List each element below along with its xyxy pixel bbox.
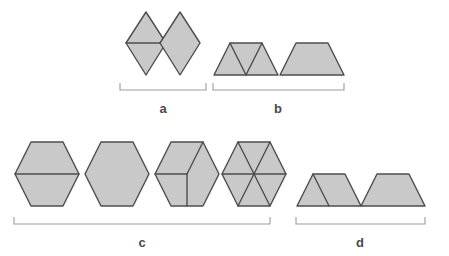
group-label-c: c [138, 235, 145, 250]
trapezoid-whole-outline [280, 43, 344, 75]
group-label-d: d [356, 235, 364, 250]
shape-group-d [297, 174, 425, 206]
hexagon-whole-outline [85, 142, 149, 206]
shape-group-c [15, 142, 286, 206]
group-label-b: b [274, 101, 282, 116]
trapezoid-three-triangles-outline [214, 43, 278, 75]
rhombus-whole [160, 12, 200, 75]
trapezoid-three-triangles [214, 43, 278, 75]
bracket-b [213, 83, 344, 90]
trapezoid-whole [361, 174, 425, 206]
bracket-a [120, 83, 206, 90]
hexagon-six-triangles [222, 142, 286, 206]
trapezoid-triangle-and-trapezoid-outline [297, 174, 361, 206]
pattern-block-figure: abcd [0, 0, 449, 256]
figure-canvas: abcd [0, 0, 449, 256]
hexagon-whole [85, 142, 149, 206]
trapezoid-triangle-and-trapezoid [297, 174, 361, 206]
shape-group-a [126, 12, 200, 75]
bracket-d [296, 217, 425, 224]
bracket-c [14, 217, 270, 224]
hexagon-three-rhombi [155, 142, 219, 206]
rhombus-whole-outline [160, 12, 200, 75]
group-label-a: a [159, 101, 167, 116]
trapezoid-whole-outline [361, 174, 425, 206]
shapes-layer [15, 12, 425, 206]
shape-group-b [214, 43, 344, 75]
trapezoid-whole [280, 43, 344, 75]
hexagon-two-trapezoids [15, 142, 79, 206]
